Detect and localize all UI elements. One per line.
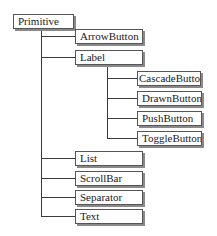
branch-line-arrowbutton [41, 36, 75, 37]
node-label: Label [75, 50, 143, 65]
branch-line-scrollbar [41, 178, 75, 179]
branch-line-pushbutton [107, 118, 137, 119]
node-togglebutton: ToggleButton [137, 131, 202, 146]
branch-line-label [41, 57, 75, 58]
branch-line-separator [41, 197, 75, 198]
node-pushbutton: PushButton [137, 111, 202, 126]
node-cascadebutton: CascadeButton [137, 71, 201, 86]
branch-line-togglebutton [107, 138, 137, 139]
branch-line-drawnbutton [107, 98, 137, 99]
branch-line-text [41, 216, 75, 217]
node-list: List [75, 151, 143, 166]
node-arrowbutton: ArrowButton [75, 29, 143, 44]
node-separator: Separator [75, 190, 143, 205]
node-drawnbutton: DrawnButton [137, 91, 202, 106]
branch-line-list [41, 158, 75, 159]
label-subtrunk-line [107, 65, 108, 139]
branch-line-cascadebutton [107, 78, 137, 79]
node-primitive: Primitive [13, 14, 74, 29]
node-scrollbar: ScrollBar [75, 171, 143, 186]
node-text: Text [75, 209, 143, 224]
